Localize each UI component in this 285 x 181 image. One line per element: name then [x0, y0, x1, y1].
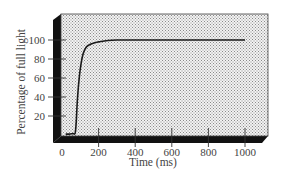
- y-tick-label: 20: [34, 110, 46, 122]
- x-tick-label: 200: [90, 146, 107, 158]
- y-tick-label: 40: [34, 91, 46, 103]
- x-tick-label: 0: [59, 146, 65, 158]
- x-tick-label: 1000: [234, 146, 257, 158]
- chart-canvas: 20406080100 02004006008001000 Percentage…: [0, 0, 285, 181]
- plot-panel: [61, 14, 268, 136]
- y-tick-label: 60: [34, 72, 46, 84]
- x-tick-label: 800: [200, 146, 217, 158]
- panel-bottom-side: [53, 136, 268, 143]
- y-tick-label: 100: [29, 34, 46, 46]
- y-axis-title: Percentage of full light: [15, 28, 28, 135]
- x-axis-title: Time (ms): [129, 156, 177, 169]
- panel-left-side: [53, 14, 61, 143]
- y-tick-label: 80: [34, 53, 46, 65]
